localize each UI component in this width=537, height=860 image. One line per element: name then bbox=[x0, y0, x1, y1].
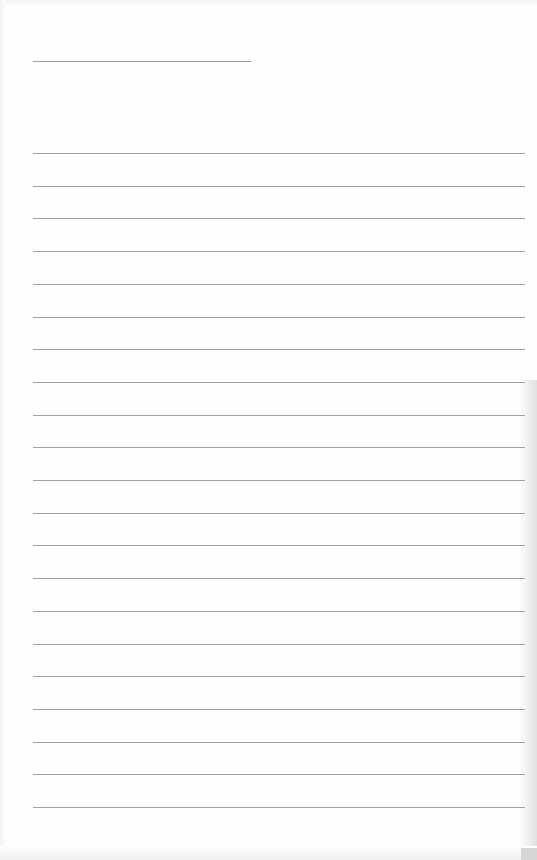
ruled-line bbox=[33, 578, 525, 579]
title-line bbox=[33, 61, 251, 62]
ruled-line bbox=[33, 349, 525, 350]
ruled-line bbox=[33, 251, 525, 252]
ruled-line bbox=[33, 153, 525, 154]
ruled-line bbox=[33, 774, 525, 775]
ruled-line bbox=[33, 382, 525, 383]
page-curl-shadow bbox=[519, 380, 537, 860]
ruled-line bbox=[33, 676, 525, 677]
ruled-line bbox=[33, 644, 525, 645]
ruled-line bbox=[33, 415, 525, 416]
ruled-line bbox=[33, 186, 525, 187]
lined-page bbox=[0, 0, 537, 860]
page-corner bbox=[521, 848, 537, 860]
ruled-line bbox=[33, 709, 525, 710]
ruled-line bbox=[33, 807, 525, 808]
ruled-line bbox=[33, 317, 525, 318]
ruled-line bbox=[33, 447, 525, 448]
ruled-line bbox=[33, 513, 525, 514]
ruled-line bbox=[33, 545, 525, 546]
scan-left-edge bbox=[0, 0, 6, 860]
scan-bottom-edge bbox=[0, 846, 537, 860]
ruled-line bbox=[33, 284, 525, 285]
scan-top-edge bbox=[0, 0, 537, 6]
ruled-line bbox=[33, 218, 525, 219]
ruled-line bbox=[33, 480, 525, 481]
ruled-line bbox=[33, 611, 525, 612]
ruled-line bbox=[33, 742, 525, 743]
